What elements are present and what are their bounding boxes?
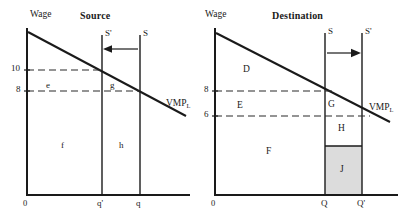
destination-region-h: H: [338, 124, 345, 134]
source-wage-tick-8: 8: [16, 85, 21, 94]
source-region-e: e: [46, 81, 50, 90]
figure-canvas: Wage Source 10 8 0 q' q S' S VMPL e g f …: [0, 0, 406, 223]
destination-quantity-tick-Q-prime: Q': [357, 199, 365, 208]
source-supply-after-label: S': [105, 29, 112, 38]
source-shift-arrow-head: [103, 45, 112, 53]
source-axis-label-wage: Wage: [30, 10, 51, 20]
source-quantity-tick-q: q: [136, 199, 141, 208]
source-region-g: g: [110, 81, 115, 90]
source-vmp-curve: [28, 32, 186, 116]
source-region-f: f: [61, 141, 64, 150]
diagram-vector-layer: [0, 0, 406, 223]
destination-region-f: F: [266, 147, 271, 157]
destination-region-e: E: [237, 101, 243, 111]
destination-vmp-label-text: VMP: [369, 102, 390, 112]
destination-origin-label: 0: [211, 199, 215, 208]
source-supply-before-label: S: [143, 29, 148, 38]
source-panel-title: Source: [80, 11, 110, 21]
destination-supply-before-label: S: [328, 27, 333, 36]
source-origin-label: 0: [23, 199, 27, 208]
destination-panel-title: Destination: [272, 11, 323, 21]
source-vmp-label-subscript: L: [187, 102, 191, 109]
destination-shift-arrow-head: [351, 49, 361, 57]
destination-vmp-label: VMPL: [369, 103, 394, 113]
source-region-h: h: [119, 141, 124, 150]
destination-region-g: G: [328, 100, 335, 110]
destination-quantity-tick-Q: Q: [321, 199, 328, 208]
destination-region-j: J: [340, 165, 344, 175]
destination-wage-tick-8: 8: [204, 85, 209, 94]
destination-vmp-label-subscript: L: [390, 106, 394, 113]
destination-wage-tick-6: 6: [204, 110, 209, 119]
source-vmp-label-text: VMP: [166, 98, 187, 108]
source-wage-tick-10: 10: [11, 64, 20, 73]
source-quantity-tick-q-prime: q': [97, 199, 103, 208]
source-vmp-label: VMPL: [166, 99, 191, 109]
destination-axis-label-wage: Wage: [205, 10, 226, 20]
destination-region-d: D: [243, 65, 250, 75]
destination-supply-after-label: S': [365, 27, 372, 36]
